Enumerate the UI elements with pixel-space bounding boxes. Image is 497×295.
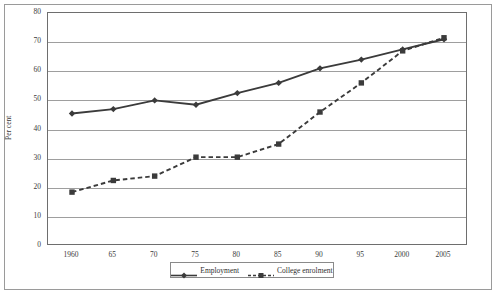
data-point-marker [441,35,446,40]
y-axis-tick-label: 10 [13,212,41,220]
data-point-marker [151,97,157,103]
x-axis-tick-label: 2005 [423,251,463,259]
data-point-marker [317,65,323,71]
legend-swatch-employment [171,266,197,275]
y-axis-tick-label: 50 [13,95,41,103]
data-point-marker [234,90,240,96]
chart-container: Per cent 01020304050607080 1960657075808… [0,0,497,295]
x-axis-tick-label: 85 [258,251,298,259]
legend-label-employment: Employment [200,266,239,275]
x-axis-tick-label: 1960 [51,251,91,259]
series-layer [48,13,468,246]
data-point-marker [193,102,199,108]
data-point-marker [69,189,74,194]
y-axis-tick-label: 60 [13,66,41,74]
series-line-college-enrolment [72,38,444,192]
x-axis-tick-label: 75 [175,251,215,259]
y-axis-tick-label: 80 [13,8,41,16]
plot-area [47,12,467,245]
x-axis-tick-label: 80 [216,251,256,259]
data-point-marker [69,110,75,116]
data-point-marker [275,80,281,86]
legend-label-college-enrolment: College enrolment [277,266,333,275]
y-axis-tick-label: 30 [13,154,41,162]
data-point-marker [358,56,364,62]
data-point-marker [276,141,281,146]
series-line-employment [72,39,444,113]
data-point-marker [235,154,240,159]
data-point-marker [317,109,322,114]
data-point-marker [110,106,116,112]
legend-entry-college-enrolment: College enrolment [248,266,333,275]
data-point-marker [400,48,405,53]
legend-entry-employment: Employment [171,266,239,275]
y-axis-tick-label: 20 [13,183,41,191]
data-point-marker [111,178,116,183]
data-point-marker [152,173,157,178]
x-axis-tick-label: 95 [340,251,380,259]
x-axis-tick-label: 65 [92,251,132,259]
legend-swatch-college-enrolment [248,266,274,275]
legend: Employment College enrolment [170,262,334,278]
x-axis-tick-label: 70 [134,251,174,259]
y-axis-tick-label: 70 [13,37,41,45]
y-axis-title: Per cent [4,116,13,140]
y-axis-tick-label: 0 [13,241,41,249]
data-point-marker [193,154,198,159]
y-axis-tick-label: 40 [13,125,41,133]
x-axis-tick-label: 90 [299,251,339,259]
data-point-marker [359,80,364,85]
x-axis-tick-label: 2000 [382,251,422,259]
